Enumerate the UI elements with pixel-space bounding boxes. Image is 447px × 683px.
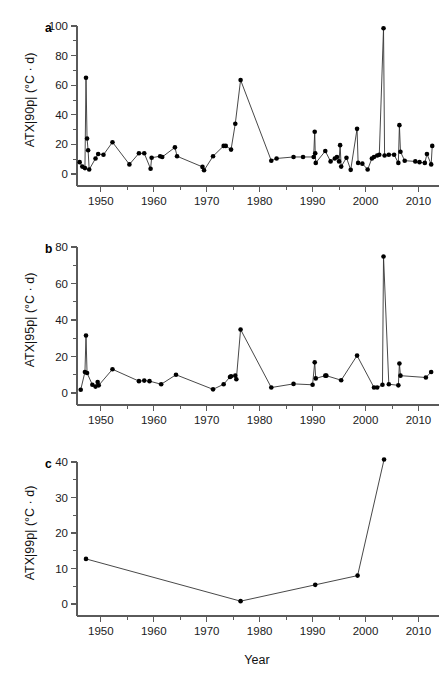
panel-b: 0204060801950196019701980199020002010ATX… xyxy=(23,241,439,426)
data-point xyxy=(142,378,147,383)
figure-container: 0204060801001950196019701980199020002010… xyxy=(0,0,447,683)
data-point xyxy=(77,160,82,165)
x-tick-label: 1970 xyxy=(194,625,220,637)
data-point xyxy=(274,156,279,161)
data-point xyxy=(174,372,179,377)
x-tick-label: 1990 xyxy=(300,414,326,426)
data-point xyxy=(398,150,403,155)
data-point xyxy=(387,382,392,387)
data-point xyxy=(397,361,402,366)
data-point xyxy=(425,152,430,157)
y-axis-title: ATX|95p| (°C · d) xyxy=(23,273,37,368)
data-point xyxy=(381,26,386,31)
data-point xyxy=(238,78,243,83)
data-point xyxy=(85,371,90,376)
data-point xyxy=(355,573,360,578)
data-point xyxy=(396,161,401,166)
data-point xyxy=(338,143,343,148)
data-point xyxy=(96,152,101,157)
y-tick-label: 20 xyxy=(55,138,68,150)
y-tick-label: 0 xyxy=(62,168,68,180)
data-point xyxy=(148,167,153,172)
data-point xyxy=(392,152,397,157)
data-point xyxy=(323,149,328,154)
data-point xyxy=(269,385,274,390)
data-point xyxy=(365,167,370,172)
data-point xyxy=(233,121,238,126)
data-point xyxy=(238,327,243,332)
data-point xyxy=(84,76,89,81)
data-point xyxy=(78,387,83,392)
data-point xyxy=(382,457,387,462)
data-point xyxy=(396,383,401,388)
data-point xyxy=(202,168,207,173)
y-tick-label: 0 xyxy=(62,598,68,610)
x-axis-title: Year xyxy=(244,653,269,667)
data-point xyxy=(313,376,318,381)
data-point xyxy=(86,148,91,153)
y-tick-label: 40 xyxy=(55,109,68,121)
data-point xyxy=(375,385,380,390)
y-tick-label: 60 xyxy=(55,278,68,290)
data-point xyxy=(313,583,318,588)
data-point xyxy=(310,382,315,387)
data-point xyxy=(324,373,329,378)
data-point xyxy=(127,162,132,167)
y-axis-title: ATX|99p| (°C · d) xyxy=(23,486,37,581)
series-line xyxy=(86,460,384,602)
data-point xyxy=(93,156,98,161)
data-point xyxy=(160,155,165,160)
data-point xyxy=(313,161,318,166)
data-point xyxy=(339,164,344,169)
data-point xyxy=(110,367,115,372)
data-point xyxy=(211,387,216,392)
x-tick-label: 1980 xyxy=(247,195,273,207)
data-point xyxy=(312,360,317,365)
data-point xyxy=(360,161,365,166)
data-point xyxy=(413,159,418,164)
panel-a: 0204060801001950196019701980199020002010… xyxy=(23,20,439,207)
data-point xyxy=(377,152,382,157)
data-point xyxy=(84,557,89,562)
data-point xyxy=(175,154,180,159)
data-point xyxy=(229,374,234,379)
x-tick-label: 1950 xyxy=(88,625,114,637)
x-tick-label: 1980 xyxy=(247,625,273,637)
data-point xyxy=(337,159,342,164)
data-point xyxy=(344,155,349,160)
x-tick-label: 1950 xyxy=(88,414,114,426)
x-tick-label: 1950 xyxy=(88,195,114,207)
data-point xyxy=(397,123,402,128)
data-point xyxy=(312,130,317,135)
data-point xyxy=(147,379,152,384)
data-point xyxy=(137,151,142,156)
y-tick-label: 40 xyxy=(55,456,68,468)
data-point xyxy=(291,382,296,387)
x-tick-label: 1990 xyxy=(300,625,326,637)
data-point xyxy=(291,155,296,160)
data-point xyxy=(380,382,385,387)
x-tick-label: 2000 xyxy=(353,625,379,637)
data-point xyxy=(430,144,435,149)
y-tick-label: 0 xyxy=(62,387,68,399)
series-line xyxy=(81,256,431,389)
data-point xyxy=(211,154,216,159)
panel-letter-a: a xyxy=(45,21,52,35)
data-point xyxy=(137,379,142,384)
panel-letter-c: c xyxy=(45,457,52,471)
data-point xyxy=(423,161,428,166)
x-tick-label: 2010 xyxy=(406,414,432,426)
data-point xyxy=(387,152,392,157)
data-point xyxy=(355,127,360,132)
x-tick-label: 2010 xyxy=(406,625,432,637)
data-point xyxy=(269,158,274,163)
y-tick-label: 10 xyxy=(55,563,68,575)
data-point xyxy=(223,144,228,149)
y-tick-label: 80 xyxy=(55,241,68,253)
data-point xyxy=(84,333,89,338)
y-tick-label: 80 xyxy=(55,50,68,62)
data-point xyxy=(229,147,234,152)
data-point xyxy=(328,159,333,164)
data-point xyxy=(381,254,386,259)
x-tick-label: 1960 xyxy=(141,414,167,426)
